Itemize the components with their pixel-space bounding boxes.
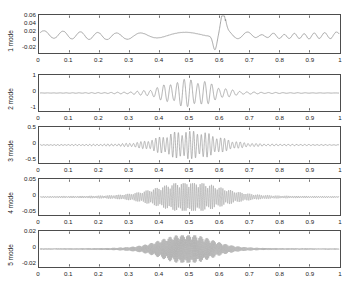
xtick-label: 0.9 (301, 270, 319, 277)
xtick-label: 1 (331, 166, 349, 173)
xtick-label: 0 (29, 218, 47, 225)
yticks-mode2: 1 0 -1 (12, 74, 36, 114)
waveform-mode2 (40, 79, 339, 106)
waveform-mode1 (40, 16, 339, 50)
xtick-label: 0.3 (120, 270, 138, 277)
ytick-label: -1 (12, 104, 36, 110)
ytick-label: 0 (12, 36, 36, 42)
xtick-label: 0.8 (271, 218, 289, 225)
xtick-label: 0.6 (210, 114, 228, 121)
xtick-label: 0.5 (180, 114, 198, 121)
xtick-label: 0.1 (59, 114, 77, 121)
xtick-label: 0.5 (180, 218, 198, 225)
xtick-label: 0.3 (120, 114, 138, 121)
xtick-label: 0 (29, 56, 47, 63)
axes-mode1 (38, 14, 341, 54)
xtick-label: 0.7 (240, 218, 258, 225)
yticks-mode5: 0.02 0 -0.02 (12, 230, 36, 270)
xtick-label: 0.6 (210, 166, 228, 173)
waveform-mode3 (40, 131, 339, 159)
subplot-mode3: 3 mode 0.5 0 -0.5 (0, 126, 359, 182)
xtick-label: 0.8 (271, 56, 289, 63)
ytick-label: 0.05 (12, 176, 36, 182)
ytick-label: 0 (12, 244, 36, 250)
xtick-label: 0.8 (271, 166, 289, 173)
xtick-label: 0.7 (240, 166, 258, 173)
subplot-mode5: 5 mode 0.02 0 -0.02 (0, 230, 359, 286)
xtick-label: 0.4 (150, 166, 168, 173)
axes-mode3 (38, 126, 341, 164)
xtick-label: 0.3 (120, 56, 138, 63)
ytick-label: 0 (12, 88, 36, 94)
xtick-label: 0.7 (240, 114, 258, 121)
subplot-mode4: 4 mode 0.05 0 -0.05 (0, 178, 359, 234)
xtick-label: 0.6 (210, 218, 228, 225)
emd-mode-figure: 1 mode 0.06 0.04 0.02 0 -0.02 2 mode 1 0… (0, 0, 359, 298)
ytick-label: 0 (12, 140, 36, 146)
xtick-label: 0.1 (59, 270, 77, 277)
xtick-label: 0.3 (120, 218, 138, 225)
xtick-label: 0.1 (59, 56, 77, 63)
xtick-label: 0.8 (271, 270, 289, 277)
plot-svg-mode2 (39, 75, 340, 111)
waveform-mode4 (40, 183, 339, 211)
ytick-label: -0.05 (12, 208, 36, 214)
xtick-label: 0.3 (120, 166, 138, 173)
xtick-label: 1 (331, 218, 349, 225)
yticks-mode3: 0.5 0 -0.5 (12, 126, 36, 166)
xtick-label: 0.2 (89, 114, 107, 121)
xtick-label: 0 (29, 270, 47, 277)
xtick-label: 0.4 (150, 270, 168, 277)
tick-marks (69, 15, 309, 52)
yticks-mode4: 0.05 0 -0.05 (12, 178, 36, 218)
xtick-label: 0.6 (210, 56, 228, 63)
plot-svg-mode5 (39, 231, 340, 267)
xtick-label: 0.2 (89, 270, 107, 277)
xtick-label: 0.9 (301, 114, 319, 121)
ytick-label: 0 (12, 192, 36, 198)
xtick-label: 0.5 (180, 270, 198, 277)
xtick-label: 0.7 (240, 56, 258, 63)
axes-mode5 (38, 230, 341, 268)
ytick-label: 0.02 (12, 28, 36, 34)
ytick-label: 0.04 (12, 20, 36, 26)
plot-svg-mode1 (39, 15, 340, 53)
xtick-label: 0.8 (271, 114, 289, 121)
ytick-label: -0.02 (12, 260, 36, 266)
xtick-label: 0.7 (240, 270, 258, 277)
xtick-label: 0.4 (150, 114, 168, 121)
ytick-label: -0.5 (12, 156, 36, 162)
xtick-label: 0.4 (150, 56, 168, 63)
xtick-label: 0.9 (301, 56, 319, 63)
xtick-label: 1 (331, 114, 349, 121)
xtick-label: 0.5 (180, 56, 198, 63)
ytick-label: 0.5 (12, 124, 36, 130)
xtick-label: 0.9 (301, 218, 319, 225)
xtick-label: 0.9 (301, 166, 319, 173)
subplot-mode1: 1 mode 0.06 0.04 0.02 0 -0.02 (0, 14, 359, 72)
plot-svg-mode4 (39, 179, 340, 215)
xtick-label: 0.2 (89, 218, 107, 225)
ytick-label: 0.02 (12, 228, 36, 234)
xtick-label: 0.2 (89, 56, 107, 63)
xtick-label: 1 (331, 270, 349, 277)
yticks-mode1: 0.06 0.04 0.02 0 -0.02 (12, 14, 36, 58)
xtick-label: 0.5 (180, 166, 198, 173)
xtick-label: 0.1 (59, 218, 77, 225)
ytick-label: 0.06 (12, 12, 36, 18)
xtick-label: 0.4 (150, 218, 168, 225)
xtick-label: 0.6 (210, 270, 228, 277)
xtick-label: 0.2 (89, 166, 107, 173)
waveform-mode5 (40, 235, 339, 262)
axes-mode4 (38, 178, 341, 216)
xtick-label: 1 (331, 56, 349, 63)
xtick-label: 0.1 (59, 166, 77, 173)
ytick-label: -0.02 (12, 44, 36, 50)
axes-mode2 (38, 74, 341, 112)
xtick-label: 0 (29, 166, 47, 173)
plot-svg-mode3 (39, 127, 340, 163)
subplot-mode2: 2 mode 1 0 -1 (0, 74, 359, 130)
ytick-label: 1 (12, 72, 36, 78)
xtick-label: 0 (29, 114, 47, 121)
